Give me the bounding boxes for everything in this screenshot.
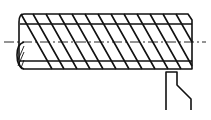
cutting-tool xyxy=(166,72,191,110)
thread-diagram xyxy=(0,0,211,120)
